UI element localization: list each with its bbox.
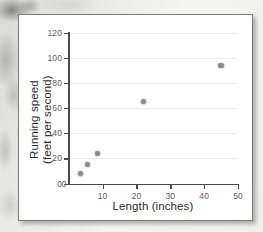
grid-line (69, 58, 237, 59)
data-point (141, 99, 146, 104)
grid-line (69, 83, 237, 84)
y-tick-mark (64, 33, 69, 34)
x-tick-label: 0 (61, 179, 66, 189)
grid-line (69, 108, 237, 109)
x-tick-mark (204, 184, 205, 189)
y-tick-mark (64, 133, 69, 134)
grid-line (69, 33, 237, 34)
x-axis-line (68, 184, 238, 186)
y-tick-mark (64, 158, 69, 159)
y-tick-label: 80 (52, 78, 62, 88)
y-tick-mark (64, 83, 69, 84)
y-tick-mark (64, 58, 69, 59)
data-point (218, 63, 223, 68)
grid-line (69, 158, 237, 159)
y-axis-title-line-1: Running speed (28, 54, 41, 186)
x-tick-mark (136, 184, 137, 189)
scatter-plot: 020406080100120 01020304050 Running spee… (19, 15, 252, 220)
data-point (85, 162, 90, 167)
y-tick-label: 60 (52, 103, 62, 113)
y-tick-label: 40 (52, 128, 62, 138)
x-tick-mark (238, 184, 239, 189)
figure-card: 020406080100120 01020304050 Running spee… (18, 14, 253, 221)
y-axis-title-line-2: (feet per second) (41, 54, 54, 186)
x-tick-mark (170, 184, 171, 189)
grid-line (69, 133, 237, 134)
data-point (95, 151, 100, 156)
y-axis-title: Running speed (feet per second) (28, 54, 53, 186)
x-tick-mark (103, 184, 104, 189)
x-axis-title: Length (inches) (68, 200, 238, 212)
y-tick-label: 20 (52, 153, 62, 163)
y-tick-mark (64, 108, 69, 109)
y-tick-label: 120 (48, 28, 62, 38)
data-point (78, 171, 83, 176)
